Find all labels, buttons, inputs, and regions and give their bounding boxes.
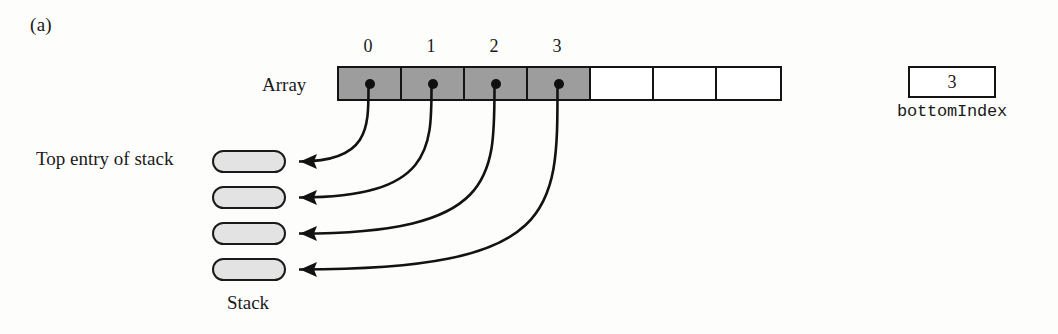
pointer-arrow-head [300,262,317,277]
array-cell-pointer-dot [491,79,501,89]
bottom-index-label: bottomIndex [896,102,1008,121]
array-label: Array [262,74,306,96]
array-row [337,66,782,101]
array-cell-pointer-dot [554,79,564,89]
stack-entry-0[interactable] [212,150,286,173]
array-cell-6[interactable] [717,68,780,99]
array-cell-pointer-dot [428,79,438,89]
bottom-index-value-box[interactable]: 3 [908,66,996,98]
array-index-label-3: 3 [545,36,569,57]
figure-canvas: (a) 0 1 2 3 Array 3 bottomIndex Top entr… [0,0,1058,334]
pointer-arrow-path [299,88,558,270]
top-entry-of-stack-label: Top entry of stack [36,148,173,170]
stack-label: Stack [196,292,300,314]
pointer-arrow-2 [299,88,495,241]
array-cell-0[interactable] [339,68,402,99]
pointer-arrow-path [299,88,495,234]
array-cell-1[interactable] [402,68,465,99]
array-cell-3[interactable] [528,68,591,99]
pointer-arrow-path [299,88,432,198]
stack-entry-2[interactable] [212,222,286,245]
stack-entry-3[interactable] [212,258,286,281]
panel-label: (a) [30,14,52,36]
pointer-arrow-1 [299,88,432,205]
pointer-arrow-head [300,154,317,169]
pointer-arrow-3 [299,88,558,277]
array-cell-2[interactable] [465,68,528,99]
array-cell-5[interactable] [654,68,717,99]
pointer-arrow-head [300,190,317,205]
array-index-label-1: 1 [419,36,443,57]
bottom-index-value: 3 [948,72,957,93]
array-index-label-0: 0 [356,36,380,57]
array-index-label-2: 2 [482,36,506,57]
array-cell-4[interactable] [591,68,654,99]
array-cell-pointer-dot [365,79,375,89]
pointer-arrow-head [300,226,317,241]
stack-entry-1[interactable] [212,186,286,209]
